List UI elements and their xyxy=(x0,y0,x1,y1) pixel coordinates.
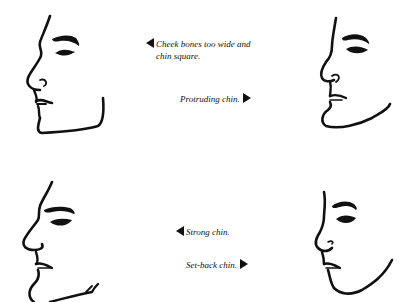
arrow-right-icon xyxy=(240,259,248,269)
arrow-right-icon xyxy=(243,93,251,103)
caption-cheek-bones: Cheek bones too wide and chin square. xyxy=(146,38,250,62)
caption-strong-chin-text: Strong chin. xyxy=(186,227,230,237)
caption-protruding-chin: Protruding chin. xyxy=(180,93,251,105)
arrow-left-icon xyxy=(176,226,184,236)
caption-strong-chin: Strong chin. xyxy=(176,226,230,238)
face-profile-strong-chin xyxy=(0,160,110,302)
face-profile-setback-chin xyxy=(290,160,404,302)
caption-cheek-bones-line1: Cheek bones too wide and xyxy=(156,39,250,49)
face-profile-square-chin xyxy=(0,0,120,140)
caption-setback-chin: Set-back chin. xyxy=(186,259,248,271)
face-profile-protruding-chin xyxy=(300,0,404,140)
caption-setback-chin-text: Set-back chin. xyxy=(186,260,237,270)
arrow-left-icon xyxy=(146,38,154,48)
caption-protruding-chin-text: Protruding chin. xyxy=(180,94,240,104)
caption-cheek-bones-line2: chin square. xyxy=(156,51,200,61)
